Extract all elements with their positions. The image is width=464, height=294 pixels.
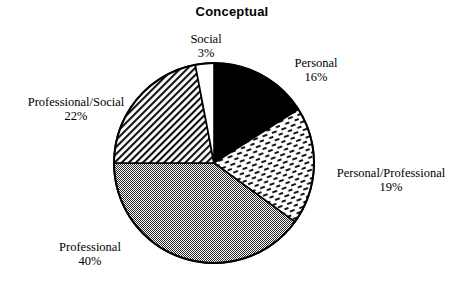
slice-label-professional-social-name: Professional/Social <box>28 95 125 109</box>
slice-label-personal-professional: Personal/Professional 19% <box>318 166 464 194</box>
slice-label-professional-social-percent: 22% <box>6 109 146 123</box>
slice-label-personal-professional-percent: 19% <box>318 180 464 194</box>
slice-label-social: Social 3% <box>166 32 246 60</box>
slice-label-personal: Personal 16% <box>268 56 364 84</box>
slice-label-social-percent: 3% <box>166 46 246 60</box>
pie-slices-group <box>114 63 314 263</box>
slice-label-personal-name: Personal <box>294 56 337 70</box>
slice-label-professional: Professional 40% <box>34 240 146 268</box>
slice-label-professional-social: Professional/Social 22% <box>6 95 146 123</box>
slice-label-professional-name: Professional <box>59 240 121 254</box>
slice-label-professional-percent: 40% <box>34 254 146 268</box>
slice-label-social-name: Social <box>190 32 221 46</box>
pie-chart-figure: Conceptual Social 3% <box>0 0 464 294</box>
slice-label-personal-percent: 16% <box>268 70 364 84</box>
slice-label-personal-professional-name: Personal/Professional <box>337 166 445 180</box>
